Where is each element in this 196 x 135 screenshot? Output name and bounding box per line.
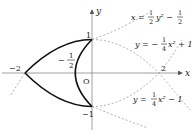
tick-one: 1 (86, 31, 91, 40)
svg-text:1: 1 (69, 52, 73, 60)
svg-text:y =: y = (132, 95, 147, 104)
tick-neg-one: −1 (82, 110, 94, 119)
svg-text:1: 1 (152, 91, 156, 99)
svg-text:2: 2 (178, 18, 182, 26)
origin-label: O (83, 77, 90, 86)
svg-text:2: 2 (69, 62, 73, 70)
svg-text:x =: x = (131, 13, 145, 22)
dashed-curve-sideways-parabola-lower (92, 107, 148, 129)
tick-neg-two: −2 (9, 64, 21, 73)
svg-text:−: − (58, 56, 65, 65)
y-axis-label: y (95, 6, 102, 16)
equation-bottom-parabola: y = 1 4 x² − 1 (132, 91, 183, 108)
svg-text:x² + 1: x² + 1 (168, 40, 193, 49)
svg-text:1: 1 (162, 36, 166, 44)
svg-text:4: 4 (152, 100, 156, 108)
tick-neg-half: − 1 2 (58, 52, 75, 70)
equation-top-parabola: y = − 1 4 x² + 1 (134, 36, 193, 53)
solid-curve-lower (25, 73, 92, 107)
tick-two: 2 (161, 64, 166, 73)
svg-text:y = −: y = − (134, 40, 158, 49)
svg-text:y² −: y² − (155, 13, 173, 22)
svg-text:1: 1 (178, 9, 182, 17)
graph-canvas: y x O −2 2 1 −1 − 1 2 x = 1 2 y² − 1 2 y… (0, 0, 196, 135)
svg-text:x² − 1: x² − 1 (158, 95, 183, 104)
svg-text:2: 2 (149, 18, 153, 26)
dashed-extension-left (10, 73, 25, 96)
equation-sideways-parabola: x = 1 2 y² − 1 2 (131, 9, 183, 26)
x-axis-label: x (185, 68, 190, 78)
svg-text:1: 1 (149, 9, 153, 17)
svg-text:4: 4 (162, 45, 166, 53)
